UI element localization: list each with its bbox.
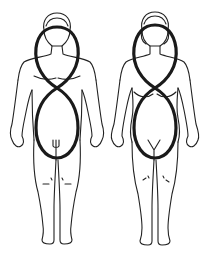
male-figure-eight-loop [36,27,79,158]
female-right-arm [178,80,199,147]
female-figure [111,12,199,245]
body-diagram [0,0,214,255]
female-torso [131,88,180,142]
male-figure [11,13,104,244]
male-knees [43,178,71,184]
male-left-arm [11,80,33,147]
female-figure-eight-loop [134,25,177,158]
male-neck-shoulders [18,46,96,80]
male-legs [34,140,81,244]
female-bust [134,92,176,97]
male-chest [34,76,80,79]
female-left-arm [111,80,132,147]
male-right-arm [82,80,104,147]
male-hairline [46,18,68,26]
female-hair [141,16,169,44]
diagram-canvas [0,0,214,255]
female-neck-shoulders [120,46,190,80]
female-knees [143,176,169,182]
male-torso [32,90,82,140]
